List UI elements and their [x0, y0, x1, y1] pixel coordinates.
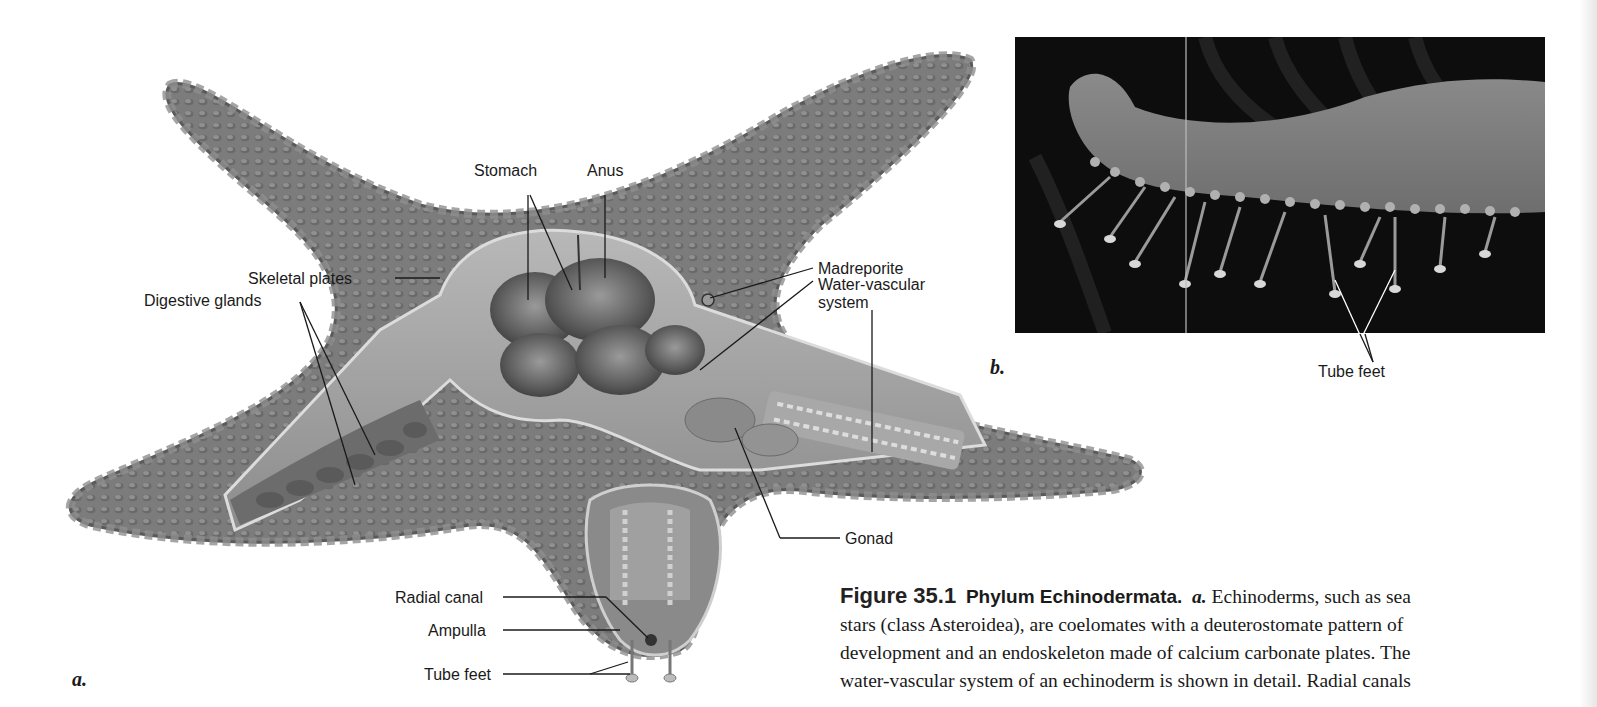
photo-leader-lines	[1015, 260, 1545, 370]
label-water-vascular: Water-vascular	[818, 276, 925, 294]
figure-caption: Figure 35.1 Phylum Echinodermata. a. Ech…	[840, 582, 1597, 695]
label-ampulla: Ampulla	[428, 622, 486, 640]
panel-a-letter: a.	[72, 668, 87, 691]
caption-text-1: Echinoderms, such as sea	[1212, 586, 1411, 607]
label-radial-canal: Radial canal	[395, 589, 483, 607]
label-digestive-glands: Digestive glands	[144, 292, 261, 310]
figure-number: Figure 35.1	[840, 583, 956, 608]
caption-line-1: Figure 35.1 Phylum Echinodermata. a. Ech…	[840, 582, 1597, 611]
caption-line-4: water-vascular system of an echinoderm i…	[840, 667, 1597, 695]
caption-line-2: stars (class Asteroidea), are coelomates…	[840, 611, 1597, 639]
page-edge-shadow	[1579, 0, 1597, 707]
arm-cross-section	[586, 485, 720, 682]
label-water-vascular-system: system	[818, 294, 869, 312]
panel-b-letter: b.	[990, 356, 1005, 379]
label-tube-feet-a: Tube feet	[424, 666, 491, 684]
caption-panel-a-marker: a.	[1192, 586, 1207, 607]
figure-title: Phylum Echinodermata.	[966, 586, 1182, 607]
label-tube-feet-b: Tube feet	[1318, 363, 1385, 381]
label-stomach: Stomach	[474, 162, 537, 180]
label-gonad: Gonad	[845, 530, 893, 548]
label-skeletal-plates: Skeletal plates	[248, 270, 352, 288]
label-anus: Anus	[587, 162, 623, 180]
caption-line-3: development and an endoskeleton made of …	[840, 639, 1597, 667]
